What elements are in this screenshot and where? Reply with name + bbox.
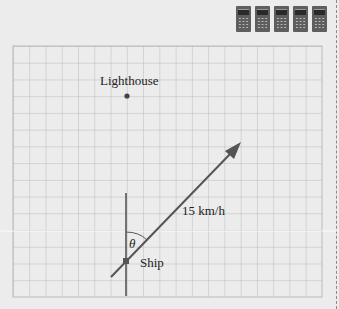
- grid: [13, 46, 322, 297]
- ship-label: Ship: [140, 255, 164, 270]
- lighthouse-marker: [124, 93, 129, 98]
- speed-label: 15 km/h: [182, 203, 225, 218]
- angle-label: θ: [129, 236, 136, 251]
- navigation-diagram: θ Ship Lighthouse 15 km/h: [0, 0, 339, 309]
- ship-marker: [123, 258, 129, 264]
- lighthouse-label: Lighthouse: [100, 73, 159, 88]
